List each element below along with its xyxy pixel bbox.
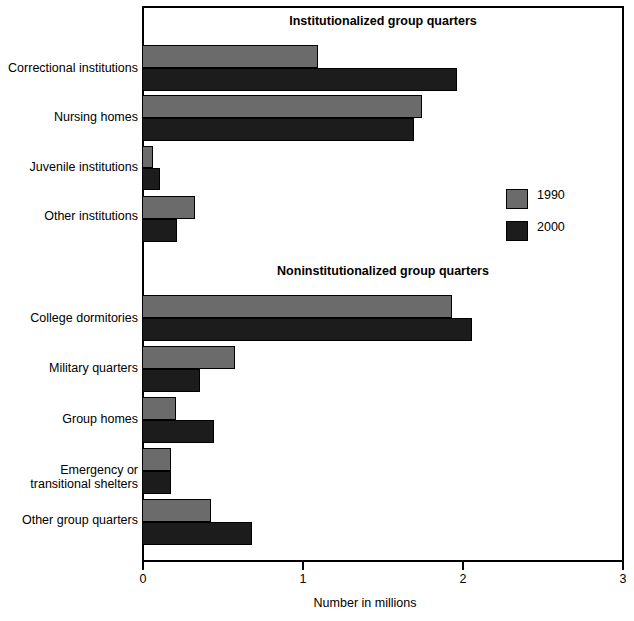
grouped-bar-chart: Institutionalized group quarters Noninst… (0, 0, 634, 621)
legend-swatch-2000-icon (506, 221, 528, 241)
bar-correctional-institutions-2000 (142, 68, 457, 91)
legend-entry-2000: 2000 (506, 218, 596, 250)
bar-juvenile-institutions-2000 (142, 168, 160, 190)
x-tick-label-3: 3 (620, 572, 627, 586)
category-label-correctional-institutions: Correctional institutions (0, 61, 138, 75)
bar-college-dormitories-2000 (142, 318, 472, 341)
bar-nursing-homes-1990 (142, 95, 422, 118)
category-label-other-group-quarters: Other group quarters (0, 513, 138, 527)
category-label-other-institutions: Other institutions (0, 209, 138, 223)
section-header-institutionalized: Institutionalized group quarters (142, 14, 624, 28)
bar-emergency-transitional-shelters-1990 (142, 448, 171, 471)
x-tick-0 (142, 562, 144, 570)
category-label-military-quarters: Military quarters (0, 361, 138, 375)
section-header-noninstitutionalized: Noninstitutionalized group quarters (142, 264, 624, 278)
bar-group-homes-1990 (142, 397, 176, 420)
category-label-juvenile-institutions: Juvenile institutions (0, 160, 138, 174)
legend-label-1990: 1990 (537, 188, 565, 202)
bar-college-dormitories-1990 (142, 295, 452, 318)
x-axis-title-wrap: Number in millions (0, 596, 634, 610)
bar-correctional-institutions-1990 (142, 45, 318, 68)
legend-entry-1990: 1990 (506, 186, 596, 218)
bar-other-institutions-1990 (142, 196, 195, 219)
bar-nursing-homes-2000 (142, 118, 414, 141)
x-tick-1 (302, 562, 304, 570)
category-label-college-dormitories: College dormitories (0, 311, 138, 325)
bar-emergency-transitional-shelters-2000 (142, 471, 171, 494)
bar-group-homes-2000 (142, 420, 214, 443)
category-label-emergency-transitional-shelters: Emergency or transitional shelters (0, 463, 138, 491)
x-axis-line (142, 560, 624, 562)
x-tick-label-1: 1 (300, 572, 307, 586)
x-axis-title: Number in millions (314, 596, 417, 610)
legend-swatch-1990-icon (506, 189, 528, 209)
x-tick-label-0: 0 (140, 572, 147, 586)
legend: 1990 2000 (506, 186, 596, 250)
category-label-nursing-homes: Nursing homes (0, 110, 138, 124)
bar-other-group-quarters-2000 (142, 522, 252, 545)
legend-label-2000: 2000 (537, 220, 565, 234)
bar-juvenile-institutions-1990 (142, 146, 153, 168)
bar-other-institutions-2000 (142, 219, 177, 242)
x-tick-label-2: 2 (460, 572, 467, 586)
x-tick-2 (462, 562, 464, 570)
category-label-group-homes: Group homes (0, 412, 138, 426)
x-tick-3 (622, 562, 624, 570)
bar-military-quarters-1990 (142, 346, 235, 369)
bar-military-quarters-2000 (142, 369, 200, 392)
bar-other-group-quarters-1990 (142, 499, 211, 522)
